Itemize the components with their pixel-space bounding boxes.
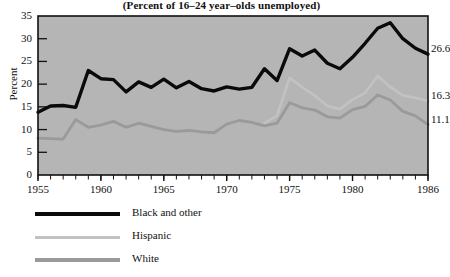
legend-swatch-2 [35,258,120,261]
legend-swatch-1 [35,236,120,239]
x-tick-label: 1965 [142,184,186,195]
y-tick-label: 30 [6,33,32,44]
y-tick-label: 10 [6,124,32,135]
y-tick-label: 35 [6,10,32,21]
x-tick-label: 1960 [79,184,123,195]
x-tick-label: 1970 [205,184,249,195]
legend-label-2: White [132,253,159,264]
y-tick-label: 15 [6,101,32,112]
x-tick-label: 1986 [406,184,450,195]
y-tick-label: 20 [6,78,32,89]
legend-label-0: Black and other [132,207,202,218]
legend-label-1: Hispanic [132,230,171,241]
y-tick-label: 25 [6,55,32,66]
y-tick-label: 0 [6,169,32,180]
chart-legend: Black and otherHispanicWhite [0,208,443,277]
x-tick-label: 1975 [268,184,312,195]
y-tick-label: 5 [6,146,32,157]
x-tick-label: 1955 [16,184,60,195]
series-end-label-1: 16.3 [431,90,450,101]
series-end-label-0: 26.6 [431,43,450,54]
x-tick-label: 1980 [331,184,375,195]
series-end-label-2: 11.1 [431,114,450,125]
legend-swatch-0 [35,212,120,216]
